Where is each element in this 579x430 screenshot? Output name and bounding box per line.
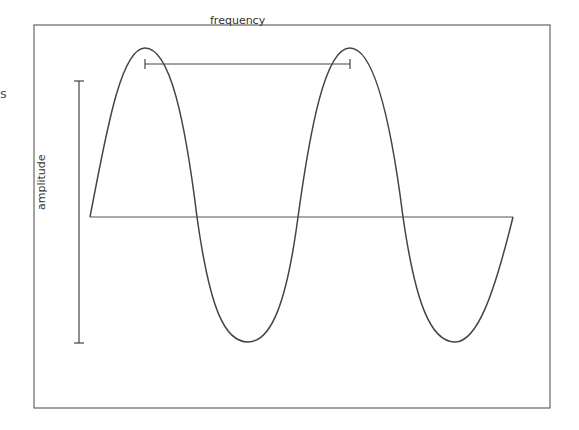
sine-wave-curve	[90, 48, 513, 342]
frequency-bracket	[145, 59, 350, 69]
sine-wave-diagram	[0, 0, 579, 430]
stray-mark: s	[0, 86, 7, 101]
amplitude-label: amplitude	[35, 154, 48, 210]
frequency-label: frequency	[210, 14, 265, 27]
amplitude-bracket	[74, 81, 84, 343]
